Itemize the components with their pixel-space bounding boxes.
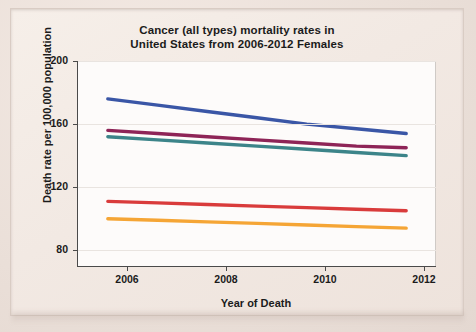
y-tick-label-120: 120	[34, 180, 68, 192]
data-lines	[78, 61, 436, 266]
x-tick-2012	[424, 266, 425, 271]
chart-title: Cancer (all types) mortality rates in Un…	[11, 23, 463, 51]
y-tick-120	[73, 187, 78, 188]
y-tick-80	[73, 250, 78, 251]
y-tick-200	[73, 61, 78, 62]
y-tick-label-200: 200	[34, 54, 68, 66]
chart-card: Cancer (all types) mortality rates in Un…	[10, 8, 464, 316]
x-tick-label-2008: 2008	[203, 273, 249, 285]
y-axis-label: Death rate per 100,000 population	[41, 5, 53, 225]
card-shadow	[12, 312, 464, 324]
plot-area: 200 160 120 80 2006 2008 2010 2012	[77, 61, 436, 267]
y-tick-label-80: 80	[34, 243, 68, 255]
chart-title-line-1: Cancer (all types) mortality rates in	[11, 23, 463, 37]
x-tick-2010	[325, 266, 326, 271]
plot-right-border	[435, 61, 436, 266]
x-tick-label-2012: 2012	[401, 273, 447, 285]
gridline-160	[78, 124, 436, 125]
x-axis-label: Year of Death	[77, 297, 435, 309]
y-tick-label-160: 160	[34, 117, 68, 129]
x-tick-2008	[226, 266, 227, 271]
gridline-200	[78, 61, 436, 62]
x-tick-label-2010: 2010	[302, 273, 348, 285]
x-tick-label-2006: 2006	[104, 273, 150, 285]
gridline-80	[78, 250, 436, 251]
line-series-5-orange	[108, 219, 406, 228]
line-series-1-blue	[108, 99, 406, 134]
gridline-120	[78, 187, 436, 188]
x-tick-2006	[127, 266, 128, 271]
y-tick-160	[73, 124, 78, 125]
line-series-4-red	[108, 201, 406, 210]
chart-title-line-2: United States from 2006-2012 Females	[11, 37, 463, 51]
chart-page: Cancer (all types) mortality rates in Un…	[0, 0, 476, 332]
